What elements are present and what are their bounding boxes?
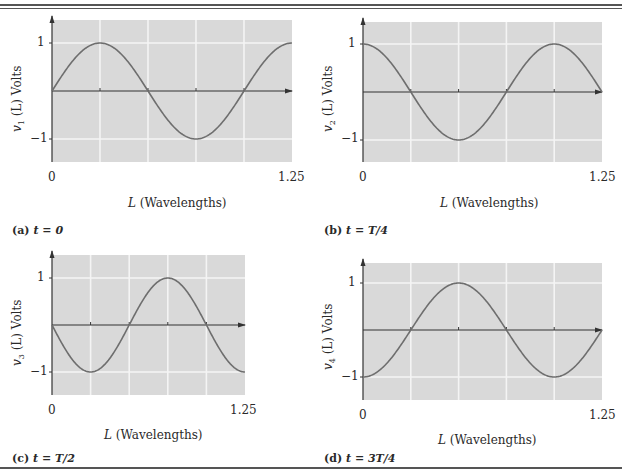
x-tick-0: 0 [359,170,367,184]
cap-val: 0 [55,224,63,237]
caption: (b) t = T/4 [324,224,388,237]
y-tick-minus1: −1 [30,364,48,378]
y-var: v [10,359,24,366]
x-tick-max: 1.25 [589,408,616,422]
x-tick-max: 1.25 [589,170,616,184]
y-sub: 1 [17,120,26,125]
x-var: L [440,196,448,210]
y-axis-label: v1 (L) Volts [10,66,26,132]
y-axis-arrow-icon [50,250,55,258]
y-var: v [10,125,24,132]
y-rest: (L) Volts [10,66,24,121]
x-unit: (Wavelengths) [112,428,203,442]
x-tick-0: 0 [48,403,56,417]
x-unit: (Wavelengths) [136,196,227,210]
caption: (a) t = 0 [12,224,63,237]
y-tick-minus1: −1 [30,131,48,145]
y-axis-arrow-icon [361,17,366,25]
x-tick-max: 1.25 [278,170,305,184]
x-axis-label: L (Wavelengths) [128,196,227,210]
y-tick-minus1: −1 [341,369,359,383]
y-sub: 3 [17,354,26,359]
x-var: L [128,196,136,210]
y-axis-label: v2 (L) Volts [321,66,337,132]
y-axis-arrow-icon [50,15,55,23]
caption: (c) t = T/2 [12,452,75,465]
y-tick-1: 1 [37,35,45,49]
x-axis-label: L (Wavelengths) [440,196,539,210]
cap-val: T/2 [55,452,75,465]
y-sub: 2 [328,120,337,125]
y-rest: (L) Volts [10,300,24,355]
y-axis-arrow-icon [361,258,366,266]
cap-letter: (c) [12,452,29,465]
x-tick-max: 1.25 [230,403,257,417]
y-tick-minus1: −1 [341,131,359,145]
cap-letter: (d) [324,452,342,465]
cap-eq: = [351,224,368,237]
y-rest: (L) Volts [321,304,335,359]
x-axis-label: L (Wavelengths) [104,428,203,442]
y-axis-label: v3 (L) Volts [10,300,26,366]
caption: (d) t = 3T/4 [324,452,395,465]
y-tick-1: 1 [37,270,45,284]
y-tick-1: 1 [348,275,356,289]
y-var: v [321,125,335,132]
cap-val: 3T/4 [368,452,396,465]
cap-eq: = [38,452,55,465]
x-var: L [438,433,446,447]
plots-canvas [0,0,622,473]
cap-eq: = [351,452,368,465]
y-rest: (L) Volts [321,66,335,121]
cap-letter: (b) [324,224,342,237]
x-tick-0: 0 [48,170,56,184]
cap-eq: = [38,224,55,237]
y-tick-1: 1 [348,36,356,50]
x-var: L [104,428,112,442]
cap-val: T/4 [368,224,388,237]
y-var: v [321,363,335,370]
y-sub: 4 [328,358,337,363]
x-tick-0: 0 [359,408,367,422]
x-unit: (Wavelengths) [448,196,539,210]
cap-letter: (a) [12,224,30,237]
x-unit: (Wavelengths) [446,433,537,447]
x-axis-label: L (Wavelengths) [438,433,537,447]
y-axis-label: v4 (L) Volts [321,304,337,370]
